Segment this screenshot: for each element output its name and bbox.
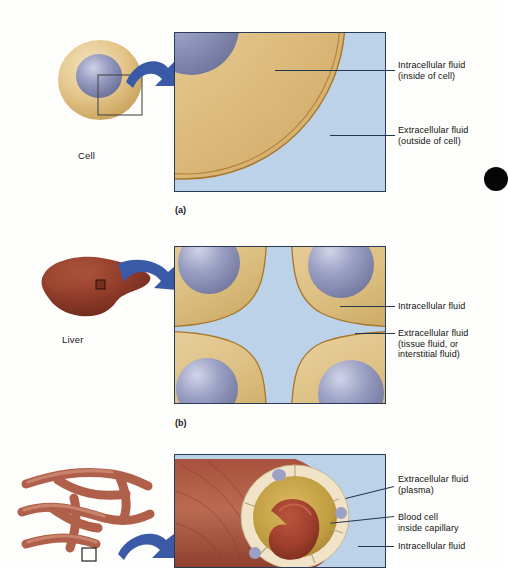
panel-a: Cell	[0, 0, 504, 228]
vessel-1	[26, 472, 148, 486]
cell-source-label: Cell	[78, 150, 95, 161]
endothelial-nucleus-2-c	[335, 507, 347, 519]
endothelial-nucleus-3-c	[249, 547, 261, 559]
arrow-shape	[118, 260, 177, 290]
panel-c: Extracellular fluid (plasma) Blood cell …	[0, 440, 504, 562]
leader-c-intracellular	[358, 546, 394, 547]
panel-b: Liver	[0, 228, 504, 440]
leader-b-extracellular	[355, 333, 395, 334]
magnified-view-c	[174, 454, 386, 568]
magnify-arrow-a	[124, 56, 180, 100]
callout-a-extracellular: Extracellular fluid (outside of cell)	[398, 125, 502, 146]
callout-c-intracellular: Intracellular fluid	[398, 541, 502, 552]
magnify-arrow-b	[116, 254, 180, 302]
magnified-view-b	[174, 246, 386, 404]
callout-c-extracellular: Extracellular fluid (plasma)	[398, 474, 502, 495]
callout-a-intracellular: Intracellular fluid (inside of cell)	[398, 60, 502, 81]
cell-nucleus	[76, 54, 122, 98]
panel-caption-b: (b)	[175, 418, 187, 428]
arrow-shape	[126, 61, 177, 88]
leader-b-intracellular	[340, 306, 395, 307]
magnified-view-a	[174, 32, 386, 192]
arrow-shape	[118, 534, 176, 560]
endothelial-nucleus-1-c	[272, 469, 286, 481]
magnify-arrow-c	[118, 526, 180, 566]
liver-source-label: Liver	[62, 334, 84, 345]
callout-b-extracellular: Extracellular fluid (tissue fluid, or in…	[398, 328, 504, 360]
leader-a-intracellular	[275, 70, 395, 71]
panel-caption-a: (a)	[175, 205, 186, 215]
leader-a-extracellular	[330, 135, 395, 136]
callout-b-intracellular: Intracellular fluid	[398, 301, 502, 312]
scan-artifact-blob	[484, 167, 508, 191]
vessel-2	[58, 480, 126, 495]
callout-c-bloodcell: Blood cell inside capillary	[398, 512, 502, 533]
liver-selection-square	[96, 280, 105, 289]
capillary-selection-square	[82, 548, 96, 561]
